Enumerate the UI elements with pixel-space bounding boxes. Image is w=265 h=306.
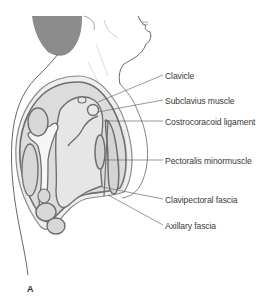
label-clavicle: Clavicle xyxy=(165,71,194,81)
label-clavipectoral-fascia: Clavipectoral fascia xyxy=(165,195,238,205)
label-pectoralis-minor-muscle: Pectoralis minormuscle xyxy=(165,156,252,166)
face-profile xyxy=(119,16,151,84)
label-costrocoracoid-ligament: Costrocoracoid ligament xyxy=(165,117,255,127)
panel-letter: A xyxy=(27,284,34,294)
ear xyxy=(84,16,95,30)
neck-line xyxy=(104,20,118,38)
subclavius-structure xyxy=(88,105,99,116)
clavicle-structure xyxy=(78,97,86,103)
hair xyxy=(32,16,82,56)
anatomy-illustration xyxy=(0,0,265,306)
label-axillary-fascia: Axillary fascia xyxy=(165,221,216,231)
label-subclavius-muscle: Subclavius muscle xyxy=(165,96,234,106)
pectoralis-minor-structure xyxy=(95,135,105,169)
